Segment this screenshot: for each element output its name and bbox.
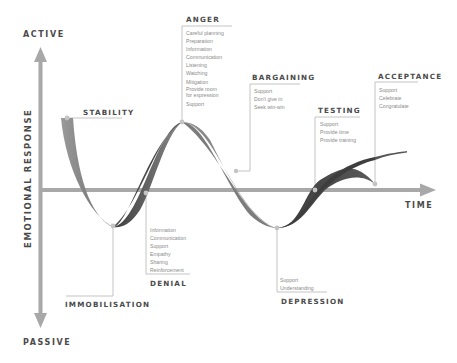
- arrow-right-icon: [420, 184, 436, 197]
- list-item: Communication: [186, 53, 224, 61]
- list-item: Support: [186, 100, 224, 108]
- stage-depression-list: Support Understanding: [280, 276, 314, 292]
- list-item: Celebrate: [379, 94, 409, 102]
- stage-anger-list: Careful planning Preparation Information…: [186, 29, 224, 108]
- list-item: Reinforcement: [150, 266, 186, 274]
- list-item: Seek win-win: [254, 103, 285, 111]
- list-item: Sharing: [150, 258, 186, 266]
- list-item: Understanding: [280, 284, 314, 292]
- axis-label-active: ACTIVE: [23, 30, 65, 39]
- list-item: for expression: [186, 92, 224, 99]
- stage-depression-label: DEPRESSION: [281, 297, 344, 306]
- stage-anger-label: ANGER: [186, 15, 220, 24]
- stage-immobilisation-label: IMMOBILISATION: [65, 300, 150, 309]
- axis-label-passive: PASSIVE: [23, 338, 71, 347]
- list-item: Support: [280, 276, 314, 284]
- list-item: Support: [254, 87, 285, 95]
- vertical-axis: [34, 47, 47, 328]
- list-item: Congratulate: [379, 102, 409, 110]
- arrow-down-icon: [34, 313, 47, 328]
- list-item: Provide time: [320, 128, 356, 136]
- list-item: Information: [150, 226, 186, 234]
- stage-stability-label: STABILITY: [83, 108, 134, 117]
- list-item: Communication: [150, 234, 186, 242]
- list-item: Don't give in: [254, 95, 285, 103]
- list-item: Support: [150, 242, 186, 250]
- stage-denial-list: Information Communication Support Empath…: [150, 226, 186, 275]
- list-item: Provide training: [320, 136, 356, 144]
- list-item: Watching: [186, 69, 224, 77]
- stage-denial-label: DENIAL: [150, 279, 187, 288]
- list-item: Support: [320, 120, 356, 128]
- list-item: Empathy: [150, 250, 186, 258]
- list-item: Listening: [186, 61, 224, 69]
- stage-bargaining-label: BARGAINING: [252, 73, 315, 82]
- list-item: Preparation: [186, 37, 224, 45]
- stage-acceptance-label: ACCEPTANCE: [378, 72, 442, 81]
- list-item: Careful planning: [186, 29, 224, 37]
- stage-bargaining-list: Support Don't give in Seek win-win: [254, 87, 285, 111]
- axis-title-emotional-response: EMOTIONAL RESPONSE: [23, 108, 33, 248]
- axis-label-time: TIME: [405, 201, 433, 210]
- stage-testing-label: TESTING: [318, 106, 361, 115]
- list-item: Information: [186, 45, 224, 53]
- list-item: Support: [379, 86, 409, 94]
- arrow-up-icon: [34, 47, 47, 62]
- stage-testing-list: Support Provide time Provide training: [320, 120, 356, 144]
- list-item: Mitigation: [186, 78, 224, 86]
- stage-acceptance-list: Support Celebrate Congratulate: [379, 86, 409, 110]
